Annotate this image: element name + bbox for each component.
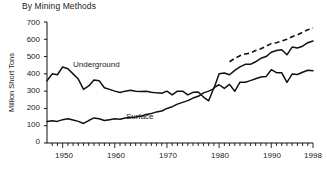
x-axis-ticks [52, 143, 313, 148]
axes [44, 22, 313, 148]
line-total-dashed [230, 28, 313, 62]
line-surface [47, 41, 313, 123]
line-underground [47, 67, 313, 101]
